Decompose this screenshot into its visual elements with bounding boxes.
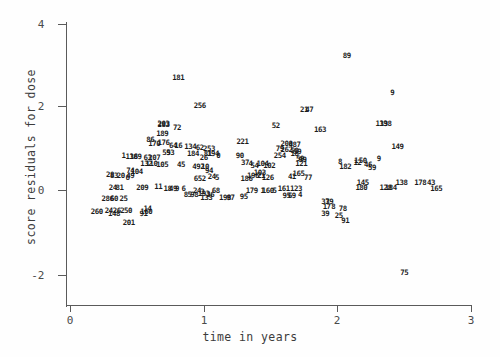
data-point-label: 221 [236,139,248,146]
data-point-label: 0 [216,152,220,159]
scatter-plot: 4 2 0 -2 0 1 2 3 score residuals for dos… [0,0,500,357]
data-point-label: 8 [331,203,335,210]
data-point-label: 133 [200,194,212,201]
data-point-label: 95 [240,194,248,201]
data-point-label: 97 [226,194,234,201]
data-point-label: 201 [123,219,135,226]
data-point-label: 77 [304,174,312,181]
data-point-label: 250 [120,207,132,214]
data-point-label: 254 [274,152,286,159]
data-point-label: 9 [390,89,394,96]
data-point-label: 182 [339,163,351,170]
data-point-label: 5 [273,187,277,194]
data-point-label: 46 [364,161,372,168]
data-point-label: 178 [414,179,426,186]
data-point-label: 181 [172,74,184,81]
data-point-label: 186 [240,176,252,183]
data-point-label: 5 [215,175,219,182]
data-point-label: 165 [430,185,442,192]
data-point-label: 20 [117,173,125,180]
data-point-label: 89 [343,53,351,60]
data-point-label: 11 [154,183,162,190]
data-point-label: 12 [353,160,361,167]
data-point-label: 60 [110,195,118,202]
data-point-label: 45 [177,161,185,168]
data-point-label: 91 [341,217,349,224]
data-points-layer: 1818992562147139138283203725216318986170… [0,0,500,357]
data-point-label: 52 [272,122,280,129]
data-point-label: 184 [385,184,397,191]
data-point-label: 256 [194,102,206,109]
data-point-label: 121 [295,161,307,168]
data-point-label: 180 [355,184,367,191]
data-point-label: 9 [377,156,381,163]
data-point-label: 176 [158,139,170,146]
data-point-label: 209 [136,184,148,191]
data-point-label: 163 [314,126,326,133]
data-point-label: 6 [125,174,129,181]
data-point-label: 91 [140,210,148,217]
data-point-label: 203 [158,121,170,128]
data-point-label: 9 [175,185,179,192]
data-point-label: 260 [91,208,103,215]
data-point-label: 105 [156,161,168,168]
data-point-label: 26 [200,154,208,161]
data-point-label: 165 [293,171,305,178]
data-point-label: 149 [391,144,403,151]
data-point-label: 39 [321,210,329,217]
data-point-label: 138 [395,179,407,186]
data-point-label: 148 [108,210,120,217]
data-point-label: 25 [119,195,127,202]
data-point-label: 75 [400,269,408,276]
data-point-label: 138 [379,120,391,127]
data-point-label: 189 [156,130,168,137]
data-point-label: 72 [173,124,181,131]
data-point-label: 69 [288,192,296,199]
data-point-label: 184 [187,151,199,158]
data-point-label: 81 [115,184,123,191]
data-point-label: 47 [305,106,313,113]
data-point-label: 652 [194,175,206,182]
data-point-label: 93 [166,149,174,156]
data-point-label: 16 [174,143,182,150]
data-point-label: 4 [298,191,302,198]
